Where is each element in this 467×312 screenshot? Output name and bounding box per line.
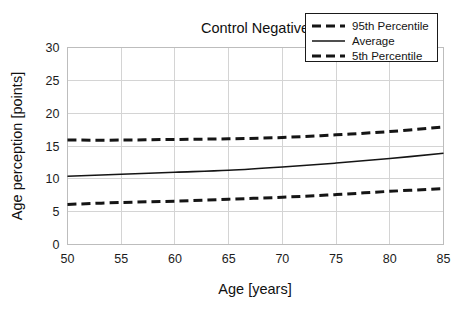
- chart-container: 051015202530 5055606570758085 Control Ne…: [0, 0, 467, 312]
- chart-title: Control Negative: [201, 20, 309, 36]
- y-tick-label: 10: [46, 172, 60, 186]
- x-axis-title: Age [years]: [218, 281, 291, 297]
- x-tick-label: 80: [383, 252, 397, 266]
- legend-label: 5th Percentile: [352, 50, 422, 62]
- y-tick-label: 25: [46, 74, 60, 88]
- legend: 95th PercentileAverage5th Percentile: [306, 14, 438, 63]
- x-tick-label: 65: [222, 252, 236, 266]
- y-tick-label: 15: [46, 140, 60, 154]
- y-tick-label: 5: [53, 205, 60, 219]
- x-tick-label: 50: [61, 252, 75, 266]
- y-tick-label: 30: [46, 41, 60, 55]
- legend-label: Average: [352, 35, 395, 47]
- x-tick-label: 85: [437, 252, 451, 266]
- x-tick-label: 75: [329, 252, 343, 266]
- y-axis-title: Age perception [points]: [9, 72, 25, 220]
- x-tick-label: 55: [114, 252, 128, 266]
- y-tick-label: 20: [46, 107, 60, 121]
- x-tick-label: 70: [275, 252, 289, 266]
- y-tick-label: 0: [53, 238, 60, 252]
- control-negative-line-chart: 051015202530 5055606570758085 Control Ne…: [0, 0, 467, 312]
- legend-label: 95th Percentile: [352, 20, 429, 32]
- x-tick-label: 60: [168, 252, 182, 266]
